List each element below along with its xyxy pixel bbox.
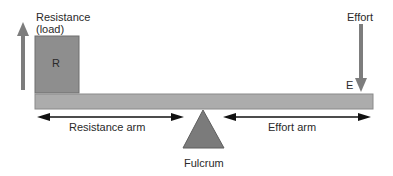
resistance-up-arrow [17, 22, 29, 90]
effort-arm-arrow [223, 113, 371, 121]
fulcrum-triangle [183, 110, 224, 148]
resistance-arm-arrow [37, 113, 184, 121]
resistance-arm-label: Resistance arm [69, 121, 145, 133]
load-label: (load) [36, 23, 64, 35]
load-box-label: R [52, 57, 60, 69]
effort-down-arrow [355, 24, 367, 92]
lever-beam [35, 94, 373, 109]
fulcrum-label: Fulcrum [184, 157, 224, 169]
effort-arm-label: Effort arm [268, 121, 316, 133]
effort-point-label: E [346, 79, 353, 91]
resistance-label: Resistance [36, 11, 90, 23]
effort-label: Effort [347, 11, 373, 23]
